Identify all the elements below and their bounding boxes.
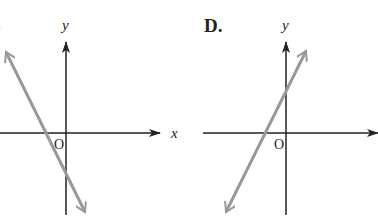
y-axis-label: y [280,17,289,33]
graph-line [226,51,306,212]
graph-line [6,52,85,212]
panel-d: D. y O [203,15,378,215]
panel-label: D. [204,15,222,36]
y-axis-label: y [60,17,69,33]
graph-figure: . x y O D. y O [0,0,378,220]
origin-label: O [274,137,284,152]
panel-label: . [0,13,1,34]
x-axis-label: x [170,125,178,141]
panel-c: . x y O [0,13,178,215]
